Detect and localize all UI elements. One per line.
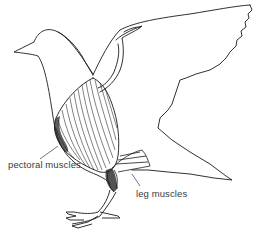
bird-illustration [0,0,257,235]
legs-and-feet [66,190,120,228]
pectoral-muscles-label: pectoral muscles [8,159,81,170]
bird-muscle-diagram: pectoral muscles leg muscles [0,0,257,235]
bird-back-outline [58,32,93,75]
leg-muscle-shading [105,168,118,192]
pectoral-leader-line [40,146,58,159]
leg-muscles-label: leg muscles [136,188,187,199]
wing-arm-outline [100,26,142,92]
wing-trailing-edge [132,5,252,180]
wing-arm-inner [98,44,119,88]
leg-leader-line [132,174,140,186]
